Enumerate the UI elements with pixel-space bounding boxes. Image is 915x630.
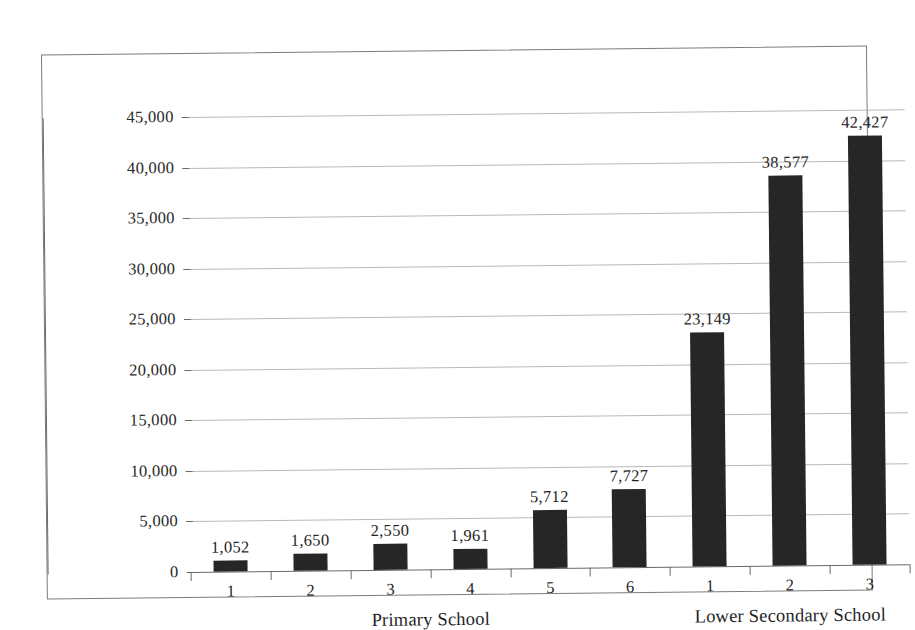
bar	[213, 561, 247, 572]
y-axis-tick-label: 5,000	[86, 514, 178, 531]
x-axis-tick-label: 5	[510, 580, 590, 597]
y-tick-mark	[184, 319, 191, 320]
y-axis-tick-label: 25,000	[84, 311, 176, 328]
x-tick-mark	[270, 571, 271, 580]
group-caption-lower-secondary-school: Lower Secondary School	[590, 603, 915, 628]
y-tick-mark	[185, 420, 192, 421]
y-tick-mark	[184, 370, 191, 371]
bar-value-label: 23,149	[647, 311, 767, 329]
bar-value-label: 7,727	[569, 467, 689, 485]
x-axis-tick-label: 3	[350, 581, 430, 598]
y-axis-tick-label: 40,000	[82, 160, 174, 177]
x-axis-tick-label: 1	[191, 583, 271, 600]
x-axis-tick-label: 2	[271, 582, 351, 599]
bar-value-label: 38,577	[725, 154, 845, 172]
bar	[532, 510, 567, 568]
y-tick-mark	[182, 167, 189, 168]
y-tick-mark	[186, 471, 193, 472]
bar	[373, 544, 407, 570]
x-axis-tick-label: 6	[590, 579, 670, 596]
y-axis-tick-label: 35,000	[83, 210, 175, 227]
x-tick-mark	[350, 570, 351, 579]
x-tick-mark	[910, 564, 911, 573]
y-axis-tick-label: 10,000	[85, 463, 177, 480]
x-tick-mark	[670, 567, 671, 576]
x-axis-tick-label: 2	[750, 577, 830, 594]
bar	[453, 549, 487, 569]
chart-frame: 05,00010,00015,00020,00025,00030,00035,0…	[41, 46, 873, 600]
x-axis-tick-label: 4	[430, 580, 510, 597]
x-tick-mark	[510, 568, 511, 577]
y-axis-tick-label: 20,000	[84, 362, 176, 379]
x-tick-mark	[750, 566, 751, 575]
y-axis-tick-label: 30,000	[83, 261, 175, 278]
y-axis-ticks: 05,00010,00015,00020,00025,00030,00035,0…	[42, 47, 866, 56]
bar	[848, 135, 887, 564]
bar	[293, 554, 327, 571]
bar-value-label: 42,427	[805, 114, 915, 132]
y-tick-mark	[183, 269, 190, 270]
x-tick-mark	[191, 572, 192, 581]
bar-value-label: 5,712	[489, 489, 609, 507]
gridlines	[42, 47, 866, 56]
x-axis-tick-label: 1	[670, 578, 750, 595]
bar	[690, 332, 727, 566]
x-axis-tick-label: 3	[830, 576, 910, 593]
group-caption-primary-school: Primary School	[231, 607, 631, 630]
bar-series: 1,0521,6502,5501,9615,7127,72723,14938,5…	[42, 47, 866, 56]
scanned-page: 05,00010,00015,00020,00025,00030,00035,0…	[0, 0, 912, 630]
y-tick-mark	[182, 117, 189, 118]
bar	[612, 489, 647, 567]
y-tick-mark	[186, 521, 193, 522]
x-tick-mark	[830, 565, 831, 574]
x-axis-ticks: 123456123	[42, 47, 866, 56]
gridline	[186, 109, 905, 118]
y-axis-line	[43, 118, 49, 574]
bar-value-label: 1,961	[410, 527, 530, 545]
y-axis-tick-label: 45,000	[82, 109, 174, 126]
y-axis-tick-label: 15,000	[85, 412, 177, 429]
bar	[769, 175, 807, 565]
x-tick-mark	[590, 568, 591, 577]
x-tick-mark	[430, 569, 431, 578]
y-tick-mark	[183, 218, 190, 219]
y-axis-tick-label: 0	[87, 564, 179, 581]
